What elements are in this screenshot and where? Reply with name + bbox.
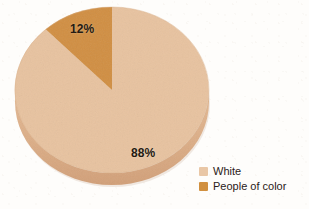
pie-chart-figure: 88% 12% White People of color xyxy=(0,0,309,209)
legend-swatch-people-of-color-icon xyxy=(199,182,208,191)
pie-graphic: 88% 12% xyxy=(0,0,225,195)
slice-value-label-people-of-color: 12% xyxy=(70,22,94,36)
legend-label-white: White xyxy=(213,165,241,178)
pie-svg xyxy=(0,0,225,195)
legend-label-people-of-color: People of color xyxy=(213,180,286,193)
legend-item-people-of-color[interactable]: People of color xyxy=(199,180,286,193)
slice-value-label-white: 88% xyxy=(131,146,155,160)
legend-swatch-white-icon xyxy=(199,167,208,176)
pie-slices xyxy=(0,0,225,195)
legend-item-white[interactable]: White xyxy=(199,165,286,178)
chart-legend: White People of color xyxy=(199,165,286,193)
